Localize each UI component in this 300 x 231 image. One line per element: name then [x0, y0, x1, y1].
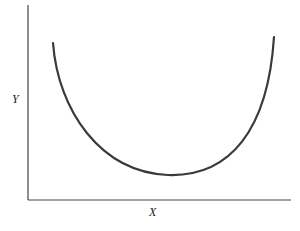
u-shaped-chart: Y X [0, 0, 300, 231]
chart-plot-area [0, 0, 300, 231]
u-curve [53, 37, 274, 175]
y-axis-label: Y [12, 92, 19, 107]
x-axis-label: X [149, 205, 156, 220]
